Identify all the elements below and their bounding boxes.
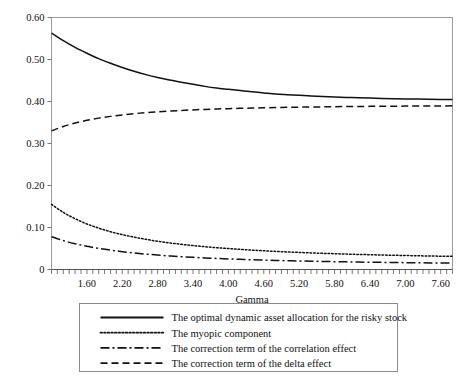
x-tick-label: 1.60 [78, 278, 96, 289]
y-tick-label: 0.50 [26, 54, 44, 65]
legend-label-4: The correction term of the delta effect [172, 358, 332, 369]
x-axis-title: Gamma [235, 294, 269, 305]
series-line-4 [52, 106, 453, 131]
y-tick-label: 0.10 [26, 222, 44, 233]
series-line-1 [52, 33, 453, 100]
y-tick-label: 0.30 [26, 138, 44, 149]
x-tick-label: 5.20 [290, 278, 308, 289]
x-tick-label: 4.00 [219, 278, 237, 289]
x-tick-label: 7.60 [432, 278, 450, 289]
x-tick-label: 2.80 [148, 278, 166, 289]
legend-label-3: The correction term of the correlation e… [172, 343, 357, 354]
legend-label-1: The optimal dynamic asset allocation for… [172, 312, 408, 323]
y-tick-label: 0.40 [26, 96, 44, 107]
x-tick-label: 5.80 [325, 278, 343, 289]
series-line-2 [52, 204, 453, 256]
x-tick-label: 7.00 [396, 278, 414, 289]
legend-label-2: The myopic component [172, 328, 272, 339]
figure-container: 00.100.200.300.400.500.601.602.202.803.4… [0, 0, 476, 382]
y-tick-label: 0.20 [26, 180, 44, 191]
x-tick-label: 6.40 [361, 278, 379, 289]
x-tick-label: 2.20 [113, 278, 131, 289]
y-tick-label: 0 [39, 264, 44, 275]
y-tick-label: 0.60 [26, 12, 44, 23]
x-tick-label: 3.40 [184, 278, 202, 289]
chart-canvas: 00.100.200.300.400.500.601.602.202.803.4… [0, 0, 476, 382]
x-tick-label: 4.60 [255, 278, 273, 289]
